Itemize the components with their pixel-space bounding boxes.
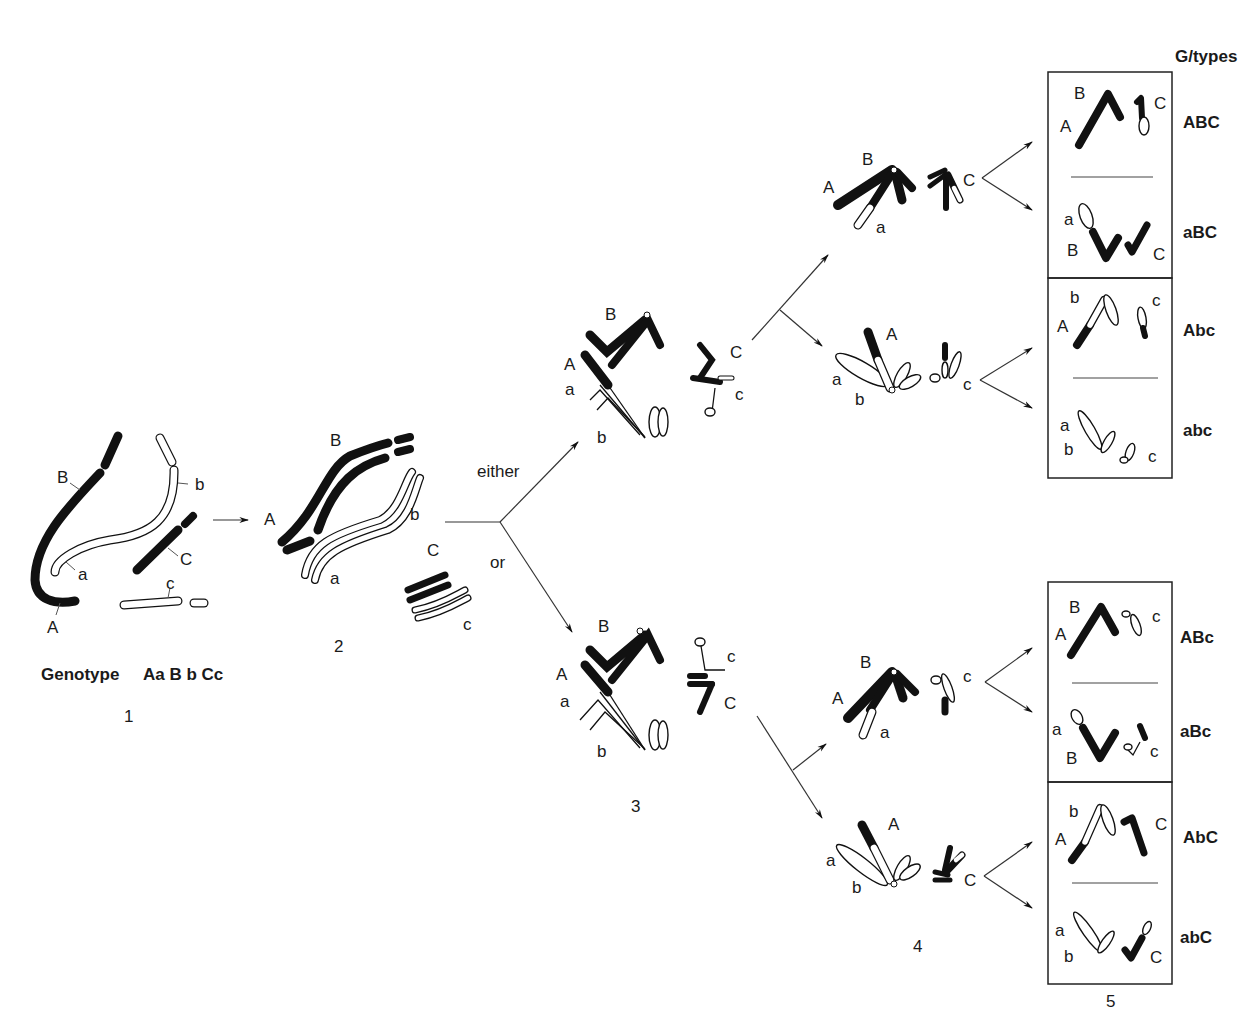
arrow-lower-icon [985, 682, 1032, 712]
gamete-genotype-aBC: aBC [1183, 223, 1217, 242]
label-C: C [427, 541, 439, 560]
stage-3-upper [585, 312, 732, 438]
label-C: C [964, 871, 976, 890]
label-B: B [862, 150, 873, 169]
label-b: b [195, 475, 204, 494]
label-C: C [1150, 948, 1162, 967]
stage-2-chromosomes [282, 437, 468, 618]
arrow-upper-icon [982, 142, 1032, 178]
gamete-genotype-Abc: Abc [1183, 321, 1215, 340]
arrow-lower-icon [780, 310, 822, 346]
label-a: a [78, 565, 88, 584]
gamete-abC-chromosomes [1070, 909, 1153, 958]
arrow-upper-icon [793, 744, 826, 770]
gamete-genotype-abc: abc [1183, 421, 1212, 440]
label-B: B [57, 468, 68, 487]
label-a: a [1064, 210, 1074, 229]
gamete-aBC-chromosomes [1076, 202, 1147, 258]
gamete-ABc-chromosomes [1071, 607, 1144, 655]
gamete-abc-chromosomes [1075, 408, 1137, 463]
gamete-genotype-AbC: AbC [1183, 828, 1218, 847]
label-b: b [855, 390, 864, 409]
label-b: b [852, 878, 861, 897]
label-C: C [1155, 815, 1167, 834]
label-A: A [264, 510, 276, 529]
label-c: c [1148, 447, 1157, 466]
label-c: c [1152, 291, 1161, 310]
label-B: B [1074, 84, 1085, 103]
label-A: A [888, 815, 900, 834]
arrow-upper-icon [985, 648, 1032, 682]
label-C: C [180, 550, 192, 569]
gametypes-header: G/types [1175, 47, 1237, 66]
arrow-lower-icon [982, 178, 1032, 210]
label-c: c [1152, 607, 1161, 626]
arrow-upper-icon [980, 348, 1032, 380]
gamete-ABC-chromosomes [1079, 94, 1149, 145]
label-C: C [730, 343, 742, 362]
gamete-genotype-ABc: ABc [1180, 628, 1214, 647]
label-c: c [166, 574, 175, 593]
stage-number-4: 4 [913, 937, 922, 956]
stage-3-lower [580, 628, 725, 750]
label-a: a [880, 723, 890, 742]
label-B: B [1069, 598, 1080, 617]
label-b: b [1064, 947, 1073, 966]
label-b: b [597, 428, 606, 447]
label-A: A [832, 689, 844, 708]
arrow-lower-icon [980, 380, 1032, 408]
label-c: c [727, 647, 736, 666]
arrow-lower-icon [757, 716, 822, 818]
label-A: A [47, 618, 59, 637]
label-a: a [832, 370, 842, 389]
label-B: B [330, 431, 341, 450]
branch-label-either: either [477, 462, 520, 481]
label-c: c [735, 385, 744, 404]
branch-label-or: or [490, 553, 505, 572]
label-B: B [860, 653, 871, 672]
label-a: a [826, 851, 836, 870]
stage-number-5: 5 [1106, 992, 1115, 1011]
gamete-AbC-chromosomes [1072, 803, 1144, 860]
label-b: b [1069, 802, 1078, 821]
stage-4-group-2 [832, 332, 964, 393]
label-C: C [1154, 94, 1166, 113]
label-a: a [1052, 720, 1062, 739]
gamete-genotype-aBc: aBc [1180, 722, 1211, 741]
genotype-prefix: Genotype [41, 665, 119, 684]
label-B: B [605, 305, 616, 324]
label-A: A [1055, 625, 1067, 644]
stage-number-3: 3 [631, 797, 640, 816]
label-B: B [598, 617, 609, 636]
arrow-or-icon [500, 522, 572, 632]
genotype-value: Aa B b Cc [143, 665, 223, 684]
arrow-upper-icon [984, 842, 1032, 876]
gamete-Abc-chromosomes [1077, 293, 1148, 345]
label-c: c [963, 667, 972, 686]
label-A: A [1060, 117, 1072, 136]
stage-number-1: 1 [124, 707, 133, 726]
arrow-lower-icon [984, 876, 1032, 908]
label-a: a [560, 692, 570, 711]
meiosis-diagram: G/types B b a C c A Genotype Aa B b Cc 1 [0, 0, 1260, 1015]
label-A: A [564, 355, 576, 374]
label-a: a [565, 380, 575, 399]
gamete-aBc-chromosomes [1069, 708, 1145, 758]
label-b: b [1070, 288, 1079, 307]
stage-4-group-1 [838, 167, 960, 225]
label-c: c [1150, 742, 1159, 761]
label-a: a [1055, 921, 1065, 940]
gamete-genotype-ABC: ABC [1183, 113, 1220, 132]
arrow-either-icon [500, 442, 578, 522]
label-a: a [1060, 416, 1070, 435]
label-c: c [463, 615, 472, 634]
label-C: C [963, 171, 975, 190]
label-C: C [724, 694, 736, 713]
label-b: b [1064, 440, 1073, 459]
gamete-genotype-abC: abC [1180, 928, 1212, 947]
label-A: A [823, 178, 835, 197]
label-B: B [1066, 749, 1077, 768]
label-A: A [1057, 317, 1069, 336]
label-c: c [963, 375, 972, 394]
label-A: A [886, 325, 898, 344]
